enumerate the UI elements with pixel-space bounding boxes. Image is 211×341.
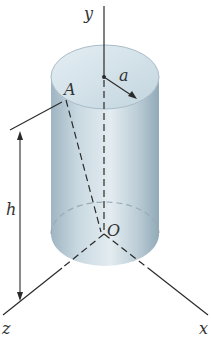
cylinder-diagram: y a A h O z x — [0, 0, 211, 341]
radius-label: a — [119, 66, 129, 85]
height-label: h — [6, 200, 16, 219]
x-axis-label: x — [199, 319, 208, 338]
h-arrowhead-up — [17, 131, 23, 140]
origin-label: O — [107, 221, 120, 240]
y-axis-label: y — [83, 4, 94, 23]
x-axis — [148, 268, 208, 315]
z-axis — [3, 268, 62, 315]
z-axis-label: z — [1, 319, 11, 338]
point-A-label: A — [62, 80, 76, 99]
